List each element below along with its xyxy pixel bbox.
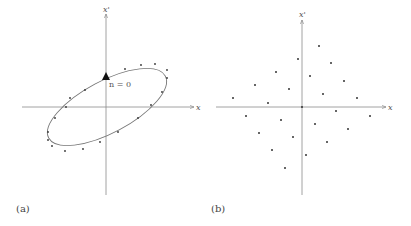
data-point xyxy=(245,115,247,117)
data-point xyxy=(275,71,277,73)
data-point xyxy=(64,150,66,152)
data-point xyxy=(301,106,303,108)
data-point xyxy=(82,148,84,150)
panel-a: x x' n = 0 (a) xyxy=(16,5,201,214)
data-point xyxy=(267,102,269,104)
x-axis-label-a: x xyxy=(196,103,201,112)
data-point xyxy=(232,97,234,99)
caption-a: (a) xyxy=(16,203,30,214)
n-zero-annotation: n = 0 xyxy=(109,80,131,89)
y-axis-label-b: x' xyxy=(299,10,306,19)
data-point xyxy=(140,64,142,66)
data-point xyxy=(330,62,332,64)
data-point xyxy=(47,131,49,133)
data-point xyxy=(69,97,71,99)
data-point xyxy=(292,136,294,138)
caption-b: (b) xyxy=(211,203,225,214)
figure: x x' n = 0 (a) x x' (b) xyxy=(0,0,411,226)
data-point xyxy=(166,69,168,71)
data-point xyxy=(280,119,282,121)
data-point xyxy=(326,141,328,143)
start-arrow-icon xyxy=(102,72,110,80)
data-point xyxy=(305,154,307,156)
data-point xyxy=(254,84,256,86)
data-point xyxy=(343,80,345,82)
data-point xyxy=(51,145,53,147)
data-point xyxy=(284,167,286,169)
data-point xyxy=(322,93,324,95)
data-point xyxy=(288,88,290,90)
data-point xyxy=(65,106,67,108)
data-point xyxy=(47,139,49,141)
data-point xyxy=(297,58,299,60)
data-point xyxy=(335,110,337,112)
data-point xyxy=(356,97,358,99)
data-point xyxy=(166,77,168,79)
data-point xyxy=(318,45,320,47)
data-point xyxy=(309,75,311,77)
data-point xyxy=(99,141,101,143)
data-point xyxy=(54,117,56,119)
data-point xyxy=(258,132,260,134)
data-point xyxy=(84,89,86,91)
data-point xyxy=(369,115,371,117)
x-axis-label-b: x xyxy=(388,103,393,112)
data-point xyxy=(124,68,126,70)
data-point xyxy=(161,91,163,93)
data-point xyxy=(150,104,152,106)
data-point xyxy=(347,128,349,130)
data-point xyxy=(117,131,119,133)
data-point xyxy=(314,123,316,125)
data-point xyxy=(154,63,156,65)
data-point xyxy=(137,117,139,119)
y-axis-label-a: x' xyxy=(103,5,110,14)
panel-b: x x' (b) xyxy=(211,10,393,214)
data-point xyxy=(271,149,273,151)
